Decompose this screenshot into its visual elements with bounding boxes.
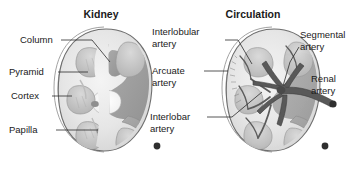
pyramid-mid-outer [67, 86, 95, 114]
label-renal-artery-line1: Renal [311, 73, 336, 84]
kidney-panel-title: Kidney [83, 8, 118, 20]
label-interlobar-artery-line1: Interlobar [150, 111, 190, 122]
label-segmental-artery-line2: artery [300, 41, 325, 52]
label-papilla: Papilla [9, 124, 38, 135]
kidney-circulation-figure: Kidney [0, 0, 354, 175]
renal-artery-tip [329, 100, 336, 107]
papilla-mid [91, 101, 99, 107]
label-arcuate-artery-line2: artery [152, 77, 177, 88]
label-interlobular-artery-line1: Interlobular [152, 26, 200, 37]
circulation-panel-title: Circulation [226, 8, 281, 20]
ureter-tip [154, 143, 161, 150]
label-interlobar-artery-line2: artery [150, 123, 175, 134]
kidney-panel: Kidney [9, 8, 160, 154]
label-pyramid: Pyramid [9, 66, 44, 77]
label-column: Column [20, 34, 53, 45]
kidney-illustration [54, 27, 160, 154]
label-segmental-artery-line1: Segmental [300, 29, 345, 40]
hilum-vessel-knot [277, 86, 286, 94]
label-interlobular-artery-line2: artery [152, 38, 177, 49]
circulation-panel: Circulation [150, 8, 345, 154]
label-cortex: Cortex [11, 90, 39, 101]
circulation-ureter-tip [322, 143, 329, 150]
label-renal-artery-line2: artery [311, 85, 336, 96]
label-arcuate-artery-line1: Arcuate [152, 65, 185, 76]
